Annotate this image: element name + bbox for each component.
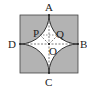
- point-b: [77, 43, 79, 45]
- label-q: Q: [56, 28, 64, 40]
- label-o: O: [49, 45, 57, 57]
- label-p: P: [33, 27, 39, 39]
- point-a: [48, 14, 50, 16]
- label-a: A: [45, 1, 53, 13]
- point-d: [19, 43, 21, 45]
- label-c: C: [45, 76, 52, 88]
- label-b: B: [80, 38, 87, 50]
- label-d: D: [8, 38, 16, 50]
- point-c: [48, 72, 50, 74]
- geometry-diagram: A B C D P Q O: [0, 0, 87, 89]
